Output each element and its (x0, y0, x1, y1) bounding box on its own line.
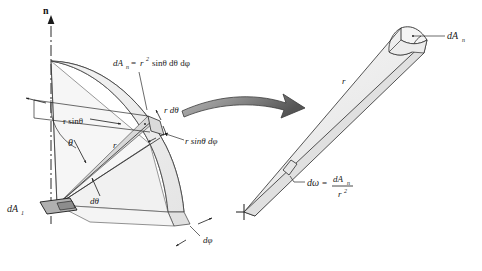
dA1-label-sub: 1 (21, 210, 24, 216)
right-solid-angle-cone: dA n r dω = dA n r 2 (236, 27, 465, 220)
dphi-tick-line (190, 226, 200, 236)
domega-equation-group: dω = dA n r 2 (307, 174, 353, 199)
domega-numerator: dA (333, 174, 344, 184)
theta-label: θ (68, 137, 73, 148)
dAn-right-label: dA (447, 30, 459, 41)
dphi-arrow-lower (176, 240, 186, 246)
domega-equals: = (322, 178, 327, 188)
dAn-formula-group: dA n = r 2 sinθ dθ dφ (113, 56, 190, 70)
big-curved-arrow (182, 94, 305, 118)
dphi-arrow-upper (198, 218, 212, 224)
transition-arrow (182, 94, 305, 118)
dAn-formula-leader (139, 72, 147, 110)
dAn-formula-r-exponent: 2 (146, 56, 149, 62)
r-sin-theta-arrow-left (26, 98, 46, 103)
dA1-label-group: dA 1 (7, 203, 24, 216)
axis-arrowhead (48, 15, 55, 24)
dtheta-label: dθ (90, 196, 100, 206)
cap-center-dot (412, 35, 414, 37)
cone-cap-dAn (401, 27, 427, 44)
radius-label-right: r (342, 76, 346, 86)
axis-label-n: n (43, 5, 49, 16)
dA1-label: dA (7, 203, 19, 214)
domega-numerator-sub: n (347, 180, 350, 186)
dphi-label: dφ (203, 235, 213, 245)
r-sin-dphi-leader (166, 134, 184, 140)
dAn-formula-rest: sinθ dθ dφ (152, 58, 190, 68)
dAn-formula-lhs: dA (113, 58, 124, 68)
dAn-right-label-group: dA n (447, 30, 465, 43)
dAn-formula-lhs-sub: n (126, 64, 129, 70)
diagram-canvas: n dA 1 dA n = r 2 sinθ dθ dφ r sinθ r si… (0, 0, 482, 271)
r-sin-theta-label: r sinθ (63, 116, 83, 126)
r-dtheta-label: r dθ (164, 105, 179, 115)
dAn-formula-equals: = (131, 58, 136, 68)
domega-denominator-exponent: 2 (344, 188, 347, 194)
r-dtheta-arrow-up (156, 110, 161, 120)
dA1-inner-patch (57, 201, 75, 210)
patch-center-dot (144, 123, 146, 125)
solid-angle-diagram: n dA 1 dA n = r 2 sinθ dθ dφ r sinθ r si… (0, 0, 482, 271)
cone-body-lower (244, 40, 427, 216)
radius-label-left: r (113, 140, 117, 150)
dAn-formula-r: r (140, 58, 144, 68)
domega-symbol: dω (307, 177, 319, 188)
dAn-right-label-sub: n (462, 37, 465, 43)
r-sin-theta-dphi-label: r sinθ dφ (185, 136, 217, 146)
domega-denominator: r (338, 189, 342, 199)
left-sphere-construction: n dA 1 dA n = r 2 sinθ dθ dφ r sinθ r si… (7, 5, 217, 246)
